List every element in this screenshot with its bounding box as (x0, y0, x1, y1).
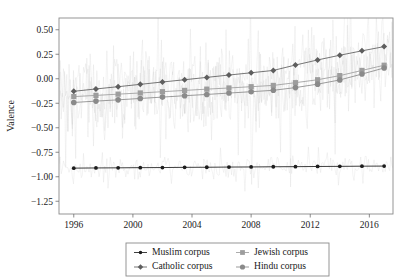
y-tick-label: −0.75 (31, 148, 53, 158)
data-point-hindu-corpus (226, 90, 232, 96)
x-tick-label: 2012 (301, 220, 320, 230)
data-point-hindu-corpus (137, 96, 143, 102)
data-point-hindu-corpus (115, 97, 121, 103)
y-tick-label: −0.25 (31, 99, 53, 109)
x-tick-label: 2016 (360, 220, 379, 230)
data-point-muslim-corpus (72, 166, 76, 170)
data-point-hindu-corpus (270, 88, 276, 94)
data-point-muslim-corpus (138, 166, 142, 170)
data-point-jewish-corpus (226, 85, 231, 90)
data-point-jewish-corpus (249, 84, 254, 89)
data-point-hindu-corpus (71, 100, 77, 106)
data-point-hindu-corpus (204, 92, 210, 98)
data-point-muslim-corpus (360, 164, 364, 168)
data-point-hindu-corpus (293, 85, 299, 91)
data-point-muslim-corpus (271, 165, 275, 169)
data-point-hindu-corpus (337, 77, 343, 83)
data-point-jewish-corpus (160, 89, 165, 94)
x-tick-label: 2008 (242, 220, 261, 230)
data-point-hindu-corpus (315, 81, 321, 87)
data-point-muslim-corpus (316, 165, 320, 169)
data-point-muslim-corpus (161, 166, 165, 170)
data-point-jewish-corpus (182, 88, 187, 93)
legend-marker-muslim-corpus (139, 251, 142, 254)
data-point-hindu-corpus (248, 89, 254, 95)
data-point-muslim-corpus (382, 164, 386, 168)
y-tick-label: −1.00 (31, 172, 53, 182)
legend-label-jewish-corpus: Jewish corpus (254, 246, 308, 257)
y-tick-label: −1.25 (31, 197, 53, 207)
data-point-jewish-corpus (204, 87, 209, 92)
legend-label-catholic-corpus: Catholic corpus (152, 260, 213, 271)
data-point-hindu-corpus (359, 71, 365, 77)
data-point-muslim-corpus (294, 165, 298, 169)
valence-trend-line-chart: 0.500.250.00−0.25−0.50−0.75−1.00−1.25 19… (0, 0, 415, 280)
data-point-jewish-corpus (138, 90, 143, 95)
data-point-hindu-corpus (93, 98, 99, 104)
x-tick-label: 1996 (64, 220, 83, 230)
y-tick-label: 0.50 (36, 25, 53, 35)
data-point-jewish-corpus (116, 92, 121, 97)
data-point-muslim-corpus (183, 165, 187, 169)
y-tick-label: −0.50 (31, 123, 53, 133)
data-point-jewish-corpus (93, 93, 98, 98)
legend-label-muslim-corpus: Muslim corpus (152, 246, 210, 257)
data-point-hindu-corpus (381, 65, 387, 71)
legend-label-hindu-corpus: Hindu corpus (254, 260, 306, 271)
chart-figure: 0.500.250.00−0.25−0.50−0.75−1.00−1.25 19… (0, 0, 415, 280)
data-point-hindu-corpus (160, 94, 166, 100)
chart-legend: Muslim corpusJewish corpusCatholic corpu… (126, 243, 329, 276)
legend-marker-hindu-corpus (240, 264, 245, 269)
data-point-muslim-corpus (249, 165, 253, 169)
x-tick-label: 2004 (183, 220, 202, 230)
y-tick-label: 0.00 (36, 74, 53, 84)
data-point-jewish-corpus (293, 80, 298, 85)
legend-marker-jewish-corpus (240, 250, 245, 255)
figure-background (0, 0, 415, 280)
data-point-hindu-corpus (182, 93, 188, 99)
data-point-muslim-corpus (205, 165, 209, 169)
y-tick-label: 0.25 (36, 50, 53, 60)
data-point-muslim-corpus (116, 166, 120, 170)
data-point-jewish-corpus (71, 94, 76, 99)
data-point-muslim-corpus (94, 166, 98, 170)
y-axis-title: Valence (5, 100, 16, 132)
data-point-muslim-corpus (227, 165, 231, 169)
data-point-jewish-corpus (271, 83, 276, 88)
x-tick-label: 2000 (123, 220, 142, 230)
data-point-muslim-corpus (338, 164, 342, 168)
